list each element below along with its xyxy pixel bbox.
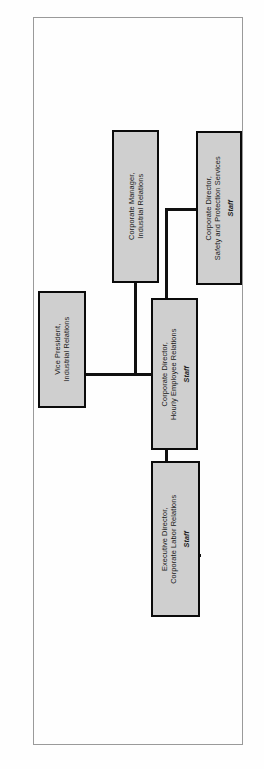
org-node-line-1: Corporate Director, [159,328,168,420]
org-node-corporate-director-safety-and-protection-services[interactable]: Corporate Director, Safety and Protectio… [196,131,242,285]
org-node-line-2: Corporate Labor Relations [170,494,179,583]
org-node-line-1: Corporate Manager, [126,173,135,241]
org-node-text: Corporate Director, Safety and Protectio… [204,156,235,260]
org-node-staff-label: Staff [182,494,191,583]
org-node-executive-director-corporate-labor-relations[interactable]: Executive Director, Corporate Labor Rela… [151,461,200,617]
org-node-staff-label: Staff [225,156,234,260]
org-node-staff-label: Staff [181,328,190,420]
connector-corporate-manager-riser [134,283,137,375]
org-node-line-2: Hourly Employee Relations [169,328,178,420]
org-node-line-1: Executive Director, [160,494,169,583]
org-node-corporate-director-hourly-employee-relations[interactable]: Corporate Director, Hourly Employee Rela… [151,298,198,450]
connector-vp-trunk [86,373,152,376]
org-node-text: Corporate Manager, Industrial Relations [126,173,145,241]
org-node-line-1: Vice President, [53,317,62,382]
connector-branch-safety [165,208,198,211]
org-node-line-1: Corporate Director, [204,156,213,260]
org-node-line-2: Safety and Protection Services [213,156,222,260]
org-node-text: Executive Director, Corporate Labor Rela… [160,494,191,583]
org-node-text: Corporate Director, Hourly Employee Rela… [159,328,190,420]
org-node-vice-president-industrial-relations[interactable]: Vice President, Industrial Relations [38,291,86,408]
org-node-line-2: Industrial Relations [62,317,71,382]
org-node-text: Vice President, Industrial Relations [53,317,72,382]
org-node-line-2: Industrial Relations [136,173,145,241]
org-node-corporate-manager-industrial-relations[interactable]: Corporate Manager, Industrial Relations [112,130,159,283]
